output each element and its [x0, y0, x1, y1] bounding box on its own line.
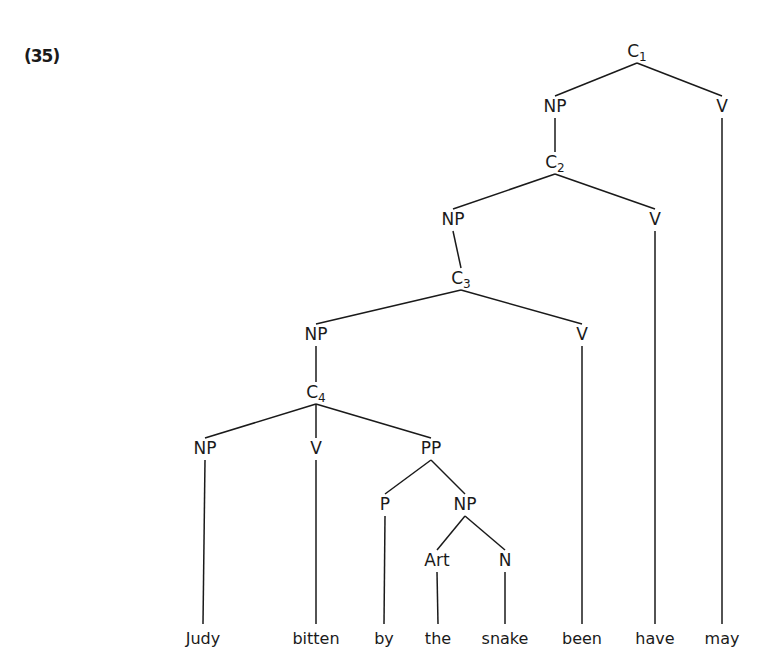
node-v1: V: [716, 96, 728, 116]
node-c4: C4: [306, 382, 326, 405]
tree-branch: [203, 460, 205, 624]
word-by: by: [374, 629, 394, 648]
tree-edges: [203, 63, 722, 624]
node-c1: C1: [627, 41, 647, 64]
tree-branch: [465, 516, 505, 550]
syntax-tree: C1NPVC2NPVC3NPVC4NPVPPPNPArtN Judybitten…: [0, 0, 765, 663]
terminal-words: Judybittenbythesnakebeenhavemay: [185, 629, 740, 648]
node-pp: PP: [421, 438, 442, 458]
node-c3: C3: [451, 268, 471, 291]
tree-branch: [316, 290, 461, 324]
node-v4: V: [310, 438, 322, 458]
word-been: been: [562, 629, 602, 648]
node-np5: NP: [454, 494, 477, 514]
tree-branch: [453, 174, 555, 209]
tree-branch: [384, 516, 385, 624]
node-np3: NP: [305, 324, 328, 344]
word-snake: snake: [482, 629, 529, 648]
word-the: the: [425, 629, 451, 648]
tree-branch: [453, 231, 461, 268]
tree-branch: [205, 404, 316, 438]
tree-branch: [555, 63, 637, 96]
word-may: may: [705, 629, 740, 648]
tree-branch: [316, 404, 431, 438]
node-v2: V: [649, 209, 661, 229]
node-np1: NP: [544, 96, 567, 116]
tree-branch: [437, 516, 465, 550]
word-Judy: Judy: [185, 629, 220, 648]
word-have: have: [635, 629, 674, 648]
node-art: Art: [424, 550, 450, 570]
node-p: P: [380, 494, 390, 514]
tree-branch: [461, 290, 582, 324]
node-v3: V: [576, 324, 588, 344]
word-bitten: bitten: [292, 629, 339, 648]
tree-branch: [385, 460, 431, 494]
tree-branch: [431, 460, 465, 494]
tree-branch: [637, 63, 722, 96]
tree-branch: [437, 572, 438, 624]
node-n: N: [499, 550, 512, 570]
node-np2: NP: [442, 209, 465, 229]
tree-branch: [555, 174, 655, 209]
node-c2: C2: [545, 152, 565, 175]
node-np4: NP: [194, 438, 217, 458]
